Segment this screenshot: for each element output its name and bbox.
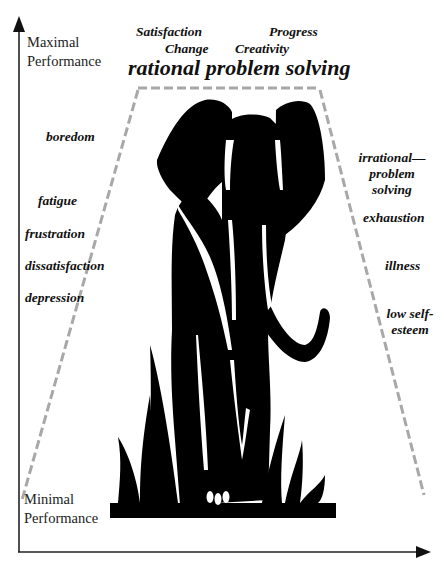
performance-text: Performance xyxy=(24,509,98,528)
irrational-problem-solving-label: irrational— problem solving xyxy=(352,150,432,198)
progress-label: Progress xyxy=(269,24,318,40)
problem-text: problem xyxy=(352,166,432,182)
illness-label: illness xyxy=(385,258,420,274)
irrational-text: irrational— xyxy=(352,150,432,166)
minimal-performance-label: Minimal Performance xyxy=(24,490,98,528)
performance-text: Performance xyxy=(27,52,101,71)
satisfaction-label: Satisfaction xyxy=(136,24,202,40)
depression-label: depression xyxy=(25,290,84,306)
maximal-text: Maximal xyxy=(27,33,101,52)
boredom-label: boredom xyxy=(46,129,95,145)
diagram-canvas: Maximal Performance Minimal Performance … xyxy=(0,0,444,566)
up-arrow-icon xyxy=(13,16,25,32)
minimal-text: Minimal xyxy=(24,490,98,509)
low-self-text: low self- xyxy=(380,306,440,322)
frustration-label: frustration xyxy=(25,226,85,242)
solving-text: solving xyxy=(352,182,432,198)
diagram-graphics xyxy=(0,0,444,566)
low-self-esteem-label: low self- esteem xyxy=(380,306,440,338)
exhaustion-label: exhaustion xyxy=(363,210,425,226)
y-axis xyxy=(13,16,25,552)
dissatisfaction-label: dissatisfaction xyxy=(25,258,105,274)
rational-problem-solving-headline: rational problem solving xyxy=(128,56,350,80)
esteem-text: esteem xyxy=(380,322,440,338)
right-arrow-icon xyxy=(416,546,431,558)
fatigue-label: fatigue xyxy=(38,193,77,209)
x-axis xyxy=(18,546,431,558)
maximal-performance-label: Maximal Performance xyxy=(27,33,101,71)
